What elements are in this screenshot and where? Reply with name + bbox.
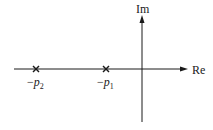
real-axis-arrow-icon — [180, 67, 188, 72]
pole-label-p1: −p1 — [97, 76, 114, 93]
pole-plot-canvas — [0, 0, 213, 130]
real-axis-label: Re — [192, 64, 205, 76]
pole-subscript: 2 — [40, 82, 44, 91]
re-text: Re — [192, 63, 205, 77]
im-text: Im — [136, 2, 149, 16]
pole-subscript: 1 — [110, 82, 114, 91]
minus-sign: − — [97, 75, 104, 89]
minus-sign: − — [27, 75, 34, 89]
pole-label-p2: −p2 — [27, 76, 44, 93]
real-axis — [14, 67, 188, 72]
imaginary-axis-arrow-icon — [140, 15, 145, 23]
imaginary-axis-label: Im — [136, 3, 149, 15]
